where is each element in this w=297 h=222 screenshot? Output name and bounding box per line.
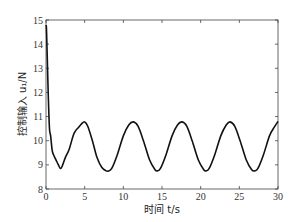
y-tick-label: 8 (38, 184, 43, 195)
y-tick-label: 15 (33, 15, 43, 26)
y-tick-label: 9 (38, 159, 43, 170)
y-tick-label: 10 (33, 135, 43, 146)
x-tick-label: 0 (44, 191, 49, 202)
y-axis-ticks: 89101112131415 (33, 15, 278, 195)
x-tick-label: 25 (234, 191, 244, 202)
y-tick-label: 12 (33, 87, 43, 98)
x-tick-label: 30 (273, 191, 283, 202)
series-line-u1 (46, 25, 278, 171)
x-tick-label: 20 (196, 191, 206, 202)
y-tick-label: 11 (33, 111, 43, 122)
x-tick-label: 15 (157, 191, 167, 202)
x-axis-ticks: 051015202530 (44, 20, 284, 202)
x-axis-title: 时间 t/s (144, 203, 180, 215)
x-tick-label: 10 (118, 191, 128, 202)
x-tick-label: 5 (82, 191, 87, 202)
y-tick-label: 13 (33, 63, 43, 74)
y-tick-label: 14 (33, 39, 43, 50)
y-axis-title: 控制输入 u₁/N (16, 72, 28, 136)
line-chart: 89101112131415 051015202530 时间 t/s 控制输入 … (0, 0, 297, 222)
series-layer (46, 25, 278, 171)
